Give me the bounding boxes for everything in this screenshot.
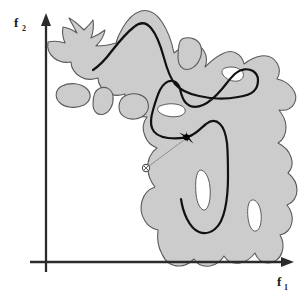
- x-axis-label-subscript: 1: [284, 283, 288, 292]
- star-core: [183, 134, 189, 140]
- y-axis-label-subscript: 2: [22, 24, 26, 33]
- pareto-front-figure: f 2 f 1: [0, 0, 308, 295]
- reference-point-marker[interactable]: [142, 164, 149, 171]
- region-lobe-left-a: [56, 84, 90, 108]
- y-axis-label-text: f: [14, 15, 19, 30]
- figure-canvas: f 2 f 1: [0, 0, 308, 295]
- x-axis-label-text: f: [277, 274, 282, 289]
- region-lobe-mid: [119, 94, 148, 119]
